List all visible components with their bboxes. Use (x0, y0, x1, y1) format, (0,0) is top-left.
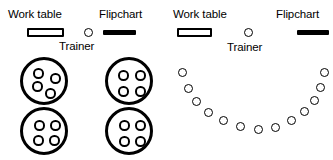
arc-seat (192, 97, 201, 106)
work-table-label: Work table (8, 8, 62, 20)
chair (33, 68, 44, 79)
chair (50, 73, 61, 84)
flipchart-fixture (297, 30, 329, 35)
arc-seat (219, 116, 228, 125)
chair (49, 135, 60, 146)
chair (135, 70, 146, 81)
chair (32, 81, 43, 92)
work-table-fixture (27, 28, 64, 37)
flipchart-label: Flipchart (99, 8, 142, 20)
arc-seat (184, 84, 193, 93)
arc-seat (204, 108, 213, 117)
chair (50, 120, 61, 131)
flipchart-fixture (103, 30, 136, 35)
layout-u-shape-horseshoe: Work table Flipchart Trainer (166, 0, 333, 160)
arc-seat (310, 96, 319, 105)
chair (119, 136, 130, 147)
arc-seat (320, 68, 329, 77)
round-table-2 (105, 57, 153, 105)
trainer-label: Trainer (227, 41, 262, 53)
chair (45, 88, 56, 99)
trainer-seat (84, 28, 93, 37)
trainer-label: Trainer (59, 40, 94, 52)
arc-seat (287, 116, 296, 125)
chair (135, 120, 146, 131)
chair (118, 70, 129, 81)
chair (119, 120, 130, 131)
arc-seat (236, 122, 245, 131)
round-table-3 (20, 107, 68, 155)
work-table-label: Work table (173, 8, 227, 20)
trainer-seat (244, 28, 253, 37)
arc-seat (316, 83, 325, 92)
chair (118, 86, 129, 97)
chair (135, 86, 146, 97)
room-layout-diagram: Work table Flipchart Trainer (0, 0, 333, 160)
flipchart-label: Flipchart (276, 8, 319, 20)
arc-seat (254, 125, 263, 134)
round-table-4 (105, 107, 153, 155)
arc-seat (271, 123, 280, 132)
arc-seat (300, 107, 309, 116)
arc-seat (178, 68, 187, 77)
chair (135, 136, 146, 147)
chair (34, 120, 45, 131)
chair (33, 135, 44, 146)
layout-cabaret-round-tables: Work table Flipchart Trainer (0, 0, 166, 160)
round-table-1 (20, 57, 68, 105)
work-table-fixture (177, 28, 212, 37)
